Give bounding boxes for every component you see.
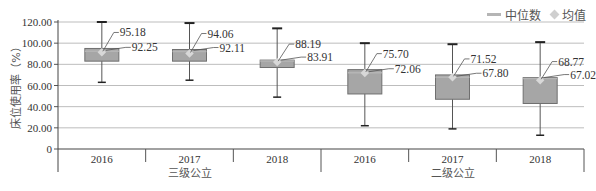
mean-value-label: 95.18	[120, 26, 146, 38]
x-category-label: 2016	[91, 153, 114, 165]
x-group-label: 三级公立	[168, 166, 212, 180]
y-tick-label: 40.00	[27, 101, 52, 113]
x-category-label: 2017	[179, 153, 202, 165]
mean-value-label: 68.77	[558, 56, 584, 68]
box-series: 95.1892.2594.0692.1188.1983.9175.7072.06…	[85, 22, 596, 135]
mean-value-label: 94.06	[208, 28, 234, 40]
y-axis-label: 床位使用率（%）	[9, 41, 23, 128]
y-tick-label: 80.00	[27, 58, 52, 70]
mean-value-label: 75.70	[383, 48, 409, 60]
x-category-label: 2016	[354, 153, 377, 165]
box-二级公立-2016: 75.7072.06	[348, 43, 421, 126]
x-category-label: 2017	[442, 153, 465, 165]
y-axis: 020.0040.0060.0080.00100.00120.00	[22, 16, 58, 172]
box-三级公立-2018: 88.1983.91	[260, 28, 333, 97]
mean-value-label: 88.19	[295, 38, 321, 50]
median-value-label: 92.11	[220, 42, 246, 54]
box-二级公立-2017: 71.5267.80	[436, 44, 509, 129]
x-group-label: 二级公立	[431, 166, 475, 180]
mean-value-label: 71.52	[471, 53, 497, 65]
box-二级公立-2018: 68.7767.02	[523, 42, 596, 135]
median-value-label: 92.25	[132, 41, 158, 53]
y-tick-label: 20.00	[27, 122, 52, 134]
y-tick-label: 120.00	[22, 16, 53, 28]
box-三级公立-2016: 95.1892.25	[85, 22, 158, 82]
box-三级公立-2017: 94.0692.11	[173, 23, 246, 80]
box-plot-chart: 020.0040.0060.0080.00100.00120.00 床位使用率（…	[0, 0, 596, 191]
median-value-label: 67.80	[483, 67, 509, 79]
y-tick-label: 100.00	[22, 37, 53, 49]
x-axis: 201620172018201620172018三级公立二级公立	[58, 149, 584, 180]
y-tick-label: 60.00	[27, 80, 52, 92]
y-tick-label: 0	[47, 143, 53, 155]
mean-leader-line	[278, 44, 289, 61]
median-value-label: 67.02	[570, 69, 596, 81]
median-value-label: 72.06	[395, 63, 421, 75]
x-category-label: 2018	[266, 153, 289, 165]
x-category-label: 2018	[529, 153, 552, 165]
median-value-label: 83.91	[307, 51, 333, 63]
mean-leader-line	[454, 59, 465, 76]
